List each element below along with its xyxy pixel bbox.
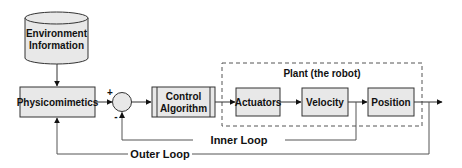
- inner-loop-label: Inner Loop: [211, 134, 268, 146]
- environment-label-line2: Information: [29, 40, 84, 51]
- environment-label-line1: Environment: [26, 28, 88, 39]
- velocity-label: Velocity: [306, 97, 344, 108]
- velocity-node: Velocity: [302, 88, 348, 116]
- control-loop-diagram: Plant (the robot) Environment Informatio…: [0, 0, 462, 168]
- position-node: Position: [368, 88, 414, 116]
- plant-label: Plant (the robot): [283, 68, 360, 79]
- control-algorithm-label-line2: Algorithm: [160, 103, 207, 114]
- physicomimetics-label: Physicomimetics: [17, 97, 99, 108]
- control-algorithm-node: Control Algorithm: [152, 87, 215, 117]
- actuators-node: Actuators: [235, 88, 282, 116]
- actuators-label: Actuators: [235, 97, 282, 108]
- physicomimetics-node: Physicomimetics: [17, 87, 99, 117]
- plus-sign: +: [107, 87, 113, 98]
- minus-sign: -: [114, 111, 117, 122]
- position-label: Position: [371, 97, 410, 108]
- summing-junction: + -: [107, 87, 131, 122]
- control-algorithm-label-line1: Control: [166, 91, 202, 102]
- environment-information-node: Environment Information: [25, 12, 88, 64]
- outer-loop-label: Outer Loop: [130, 148, 190, 160]
